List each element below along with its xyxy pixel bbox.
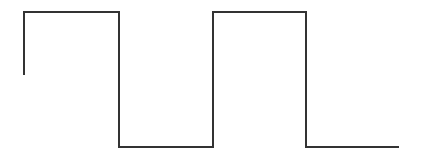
waveform-canvas <box>0 0 422 150</box>
square-wave-line <box>24 12 399 147</box>
square-wave-diagram <box>0 0 422 150</box>
